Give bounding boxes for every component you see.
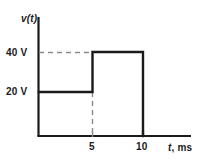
x-axis-label: t, ms: [168, 143, 192, 153]
x-tick-label-5: 5: [89, 142, 95, 152]
x-tick-label-10: 10: [136, 142, 148, 152]
plot-canvas: [0, 0, 205, 163]
x-axis-label-unit: , ms: [172, 142, 193, 153]
waveform-trace: [39, 52, 143, 136]
voltage-waveform-figure: v(t) 40 V 20 V 5 10 t, ms: [0, 0, 205, 163]
y-axis-label: v(t): [21, 14, 37, 24]
y-tick-label-40: 40 V: [6, 48, 27, 58]
y-tick-label-20: 20 V: [6, 87, 27, 97]
